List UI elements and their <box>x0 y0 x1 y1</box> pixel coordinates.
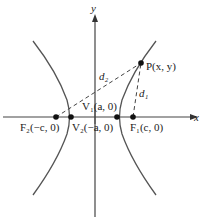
focus-f1-label: F₁(c, 0) <box>130 121 163 134</box>
vertex-v2 <box>68 114 74 120</box>
vertex-v1-label: V₁(a, 0) <box>82 100 117 113</box>
focus-f2-label: F₂(−c, 0) <box>20 121 60 134</box>
vertex-v2-label: V₂(−a, 0) <box>72 121 114 134</box>
focus-f1 <box>130 114 136 120</box>
y-axis-label: y <box>90 2 96 14</box>
x-axis-label: x <box>193 111 199 123</box>
vertex-v1 <box>114 114 120 120</box>
point-p-label: P(x, y) <box>146 60 176 73</box>
d1-label: d₁ <box>139 87 149 99</box>
point-p <box>138 60 144 66</box>
hyperbola-diagram: y x P(x, y) d₂ d₁ V₁(a, 0) V₂(−a, 0) F₂(… <box>0 0 202 217</box>
y-axis-arrow-icon <box>92 14 98 22</box>
hyperbola-left-branch <box>33 41 70 195</box>
d2-label: d₂ <box>99 70 109 82</box>
focus-f2 <box>53 114 59 120</box>
